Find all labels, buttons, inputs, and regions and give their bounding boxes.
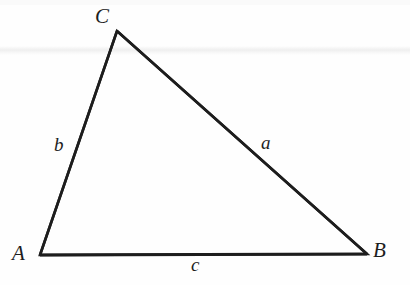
side-label-b: b <box>54 135 64 154</box>
vertex-label-a: A <box>12 243 25 264</box>
side-label-a: a <box>261 133 271 152</box>
vertex-label-b: B <box>373 240 386 261</box>
vertex-label-c: C <box>95 6 109 27</box>
side-label-c: c <box>191 255 199 274</box>
triangle-outline <box>40 31 367 255</box>
side-a-segment <box>117 31 367 254</box>
side-c-segment <box>40 254 367 255</box>
side-b-segment <box>40 31 117 255</box>
triangle-figure: A B C a b c <box>0 0 410 285</box>
